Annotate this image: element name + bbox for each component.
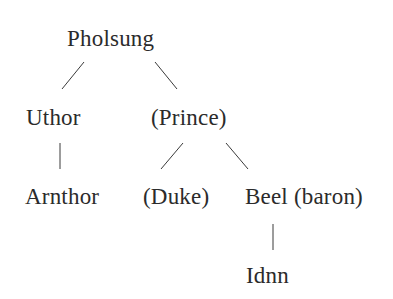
node-uthor: Uthor: [26, 106, 81, 129]
node-duke: (Duke): [143, 185, 209, 208]
node-idnn: Idnn: [246, 264, 289, 287]
edge-pholsung-uthor: [62, 62, 84, 89]
edge-pholsung-prince: [155, 62, 177, 89]
node-prince: (Prince): [151, 106, 227, 129]
node-pholsung: Pholsung: [67, 27, 154, 50]
edge-prince-beel: [226, 143, 248, 169]
node-beel: Beel (baron): [245, 185, 363, 208]
node-arnthor: Arnthor: [25, 185, 99, 208]
family-tree-diagram: Pholsung Uthor (Prince) Arnthor (Duke) B…: [0, 0, 393, 299]
tree-edges: [0, 0, 393, 299]
edge-prince-duke: [161, 143, 183, 169]
